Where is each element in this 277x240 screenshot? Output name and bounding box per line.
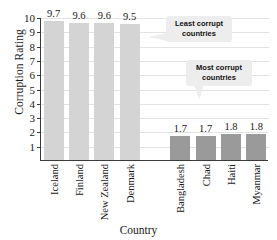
bar: 9.5Denmark: [120, 24, 140, 160]
x-axis-category-label: Bangladesh: [175, 164, 186, 213]
bar: 9.7Iceland: [44, 21, 64, 160]
y-axis-tick-label: 1: [13, 141, 35, 153]
x-axis-category-label: Iceland: [48, 164, 59, 195]
bar-value-label: 9.6: [72, 10, 85, 21]
bar: 9.6New Zealand: [94, 23, 114, 160]
bar: 1.7Chad: [196, 136, 216, 160]
bar-value-label: 9.7: [47, 8, 60, 19]
x-axis-category-label: Chad: [200, 164, 211, 186]
y-axis-tick-label: 9: [13, 26, 35, 38]
annotation-least-corrupt-line1: Least corrupt: [171, 19, 227, 29]
y-axis-tick-label: 10: [13, 12, 35, 24]
bar-value-label: 1.7: [199, 123, 212, 134]
y-axis-tick: [37, 118, 41, 119]
bar-value-label: 1.8: [250, 121, 263, 132]
annotation-least-corrupt: Least corrupt countries: [166, 16, 232, 42]
bar-value-label: 1.7: [174, 123, 187, 134]
x-axis-category-label: Haiti: [226, 164, 237, 185]
y-axis-tick: [37, 47, 41, 48]
y-axis-tick: [37, 18, 41, 19]
y-axis-tick: [37, 132, 41, 133]
y-axis-tick-label: 6: [13, 69, 35, 81]
x-axis-category-label: Finland: [74, 164, 85, 196]
annotation-least-corrupt-tail: [148, 33, 167, 41]
y-axis-tick: [37, 147, 41, 148]
bar: 1.7Bangladesh: [170, 136, 190, 160]
bar-chart: Corruption Rating 123456789109.7Iceland9…: [0, 0, 277, 240]
bar-value-label: 1.8: [224, 121, 237, 132]
annotation-most-corrupt: Most corrupt countries: [186, 60, 252, 86]
y-axis-tick-label: 3: [13, 112, 35, 124]
y-axis-tick-label: 2: [13, 126, 35, 138]
y-axis-tick-label: 7: [13, 55, 35, 67]
y-axis-tick: [37, 61, 41, 62]
annotation-most-corrupt-line2: countries: [191, 73, 247, 83]
x-axis-title: Country: [0, 224, 277, 236]
y-axis-tick: [37, 104, 41, 105]
bar: 1.8Myanmar: [246, 134, 266, 160]
y-axis-tick-label: 4: [13, 98, 35, 110]
y-axis-tick: [37, 90, 41, 91]
x-axis-category-label: New Zealand: [99, 164, 110, 220]
y-axis-tick-label: 8: [13, 41, 35, 53]
bar-value-label: 9.5: [123, 11, 136, 22]
annotation-most-corrupt-tail: [194, 84, 204, 100]
x-axis-category-label: Myanmar: [251, 164, 262, 205]
annotation-most-corrupt-line1: Most corrupt: [191, 63, 247, 73]
bar: 1.8Haiti: [221, 134, 241, 160]
x-axis-category-label: Denmark: [124, 164, 135, 203]
y-axis-tick: [37, 75, 41, 76]
annotation-least-corrupt-line2: countries: [171, 29, 227, 39]
bar: 9.6Finland: [69, 23, 89, 160]
bar-value-label: 9.6: [98, 10, 111, 21]
y-axis-tick-label: 5: [13, 84, 35, 96]
y-axis-tick: [37, 32, 41, 33]
